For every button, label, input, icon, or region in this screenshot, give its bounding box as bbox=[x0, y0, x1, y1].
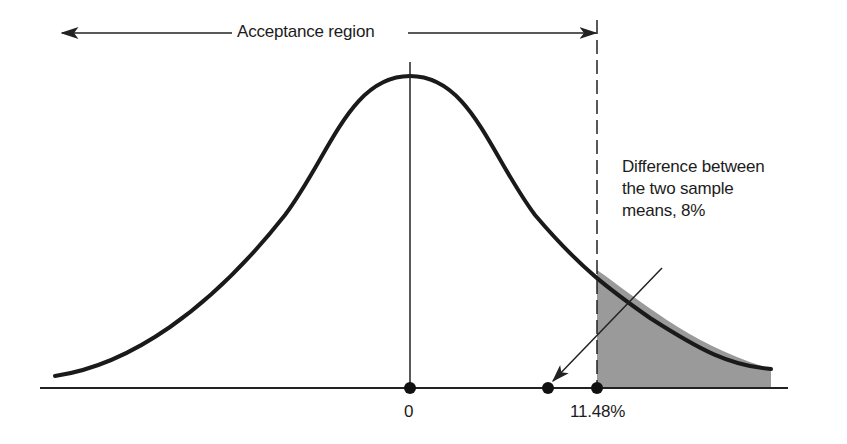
annotation-line-2: the two sample bbox=[622, 178, 765, 200]
rejection-region bbox=[597, 270, 771, 388]
critical-value-point bbox=[591, 382, 603, 394]
acceptance-region-label: Acceptance region bbox=[235, 22, 376, 42]
observed-difference-annotation: Difference between the two sample means,… bbox=[622, 156, 765, 222]
annotation-line-1: Difference between bbox=[622, 156, 765, 178]
annotation-line-3: means, 8% bbox=[622, 200, 765, 222]
hypothesis-test-diagram: Acceptance region Difference between the… bbox=[0, 0, 847, 444]
tick-label-zero: 0 bbox=[404, 402, 413, 422]
tick-label-critical-value: 11.48% bbox=[570, 402, 625, 422]
mean-point bbox=[404, 382, 416, 394]
observed-difference-point bbox=[542, 382, 554, 394]
